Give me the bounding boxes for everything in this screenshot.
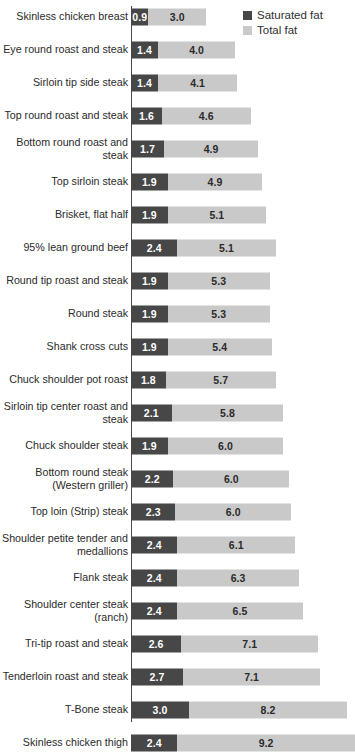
chart-row: Top loin (Strip) steak2.36.0 [0, 495, 325, 528]
bar-segment-saturated-fat: 1.9 [131, 437, 168, 454]
bar-segment-total-fat: 7.1 [183, 668, 320, 685]
category-label: Skinless chicken breast [2, 10, 128, 22]
stacked-bar: 1.95.3 [131, 272, 270, 289]
chart-row: Sirloin tip center roast and steak2.15.8 [0, 396, 325, 429]
chart-row: Chuck shoulder pot roast1.85.7 [0, 363, 325, 396]
stacked-bar: 1.95.3 [131, 305, 270, 322]
category-label: Skinless chicken thigh [2, 736, 128, 748]
category-label: Bottom round roast and steak [2, 136, 128, 161]
stacked-bar: 1.64.6 [131, 107, 251, 124]
stacked-bar: 2.77.1 [131, 668, 320, 685]
bar-segment-saturated-fat: 3.0 [131, 701, 189, 718]
bar-segment-saturated-fat: 1.9 [131, 272, 168, 289]
bar-segment-total-fat: 3.0 [148, 8, 206, 25]
bar-segment-saturated-fat: 2.6 [131, 635, 181, 652]
stacked-bar: 1.94.9 [131, 173, 262, 190]
category-label: Shank cross cuts [2, 340, 128, 352]
category-label: Shoulder center steak (ranch) [2, 598, 128, 623]
bar-segment-saturated-fat: 1.4 [131, 41, 158, 58]
stacked-bar: 2.45.1 [131, 239, 276, 256]
category-label: Top round roast and steak [2, 109, 128, 121]
bar-segment-total-fat: 5.3 [168, 305, 270, 322]
chart-row: Skinless chicken thigh2.49.2 [0, 726, 325, 756]
bar-segment-total-fat: 4.1 [158, 74, 237, 91]
chart-row: Chuck shoulder steak1.96.0 [0, 429, 325, 462]
bar-segment-saturated-fat: 2.4 [131, 602, 177, 619]
chart-row: Bottom round steak (Western griller)2.26… [0, 462, 325, 495]
bar-segment-saturated-fat: 2.4 [131, 569, 177, 586]
stacked-bar: 1.95.4 [131, 338, 272, 355]
chart-row: Brisket, flat half1.95.1 [0, 198, 325, 231]
stacked-bar: 1.74.9 [131, 140, 258, 157]
bar-segment-saturated-fat: 1.4 [131, 74, 158, 91]
bar-segment-total-fat: 6.0 [175, 503, 291, 520]
stacked-bar: 1.44.0 [131, 41, 235, 58]
chart-row: Shoulder petite tender and medallions2.4… [0, 528, 325, 561]
category-label: Round tip roast and steak [2, 274, 128, 286]
category-label: Top loin (Strip) steak [2, 505, 128, 517]
category-label: Brisket, flat half [2, 208, 128, 220]
chart-row: Round steak1.95.3 [0, 297, 325, 330]
bar-segment-total-fat: 4.6 [162, 107, 251, 124]
chart-row: Bottom round roast and steak1.74.9 [0, 132, 325, 165]
stacked-bar: 2.67.1 [131, 635, 318, 652]
stacked-bar: 2.49.2 [131, 734, 355, 751]
category-label: Flank steak [2, 571, 128, 583]
chart-row: Sirloin tip side steak1.44.1 [0, 66, 325, 99]
bar-segment-total-fat: 5.4 [168, 338, 272, 355]
stacked-bar: 2.36.0 [131, 503, 291, 520]
bar-segment-total-fat: 5.3 [168, 272, 270, 289]
bar-segment-total-fat: 7.1 [181, 635, 318, 652]
bar-segment-total-fat: 6.3 [177, 569, 299, 586]
category-label: T-Bone steak [2, 703, 128, 715]
bar-segment-total-fat: 9.2 [177, 734, 355, 751]
stacked-bar: 0.93.0 [131, 8, 206, 25]
category-label: Shoulder petite tender and medallions [2, 532, 128, 557]
bar-segment-saturated-fat: 1.9 [131, 173, 168, 190]
category-label: Sirloin tip center roast and steak [2, 400, 128, 425]
bar-segment-total-fat: 5.7 [166, 371, 276, 388]
stacked-bar: 1.85.7 [131, 371, 276, 388]
chart-row: Round tip roast and steak1.95.3 [0, 264, 325, 297]
bar-segment-saturated-fat: 1.9 [131, 338, 168, 355]
stacked-bar: 2.15.8 [131, 404, 283, 421]
bar-segment-saturated-fat: 1.9 [131, 305, 168, 322]
bar-segment-total-fat: 5.8 [172, 404, 284, 421]
bar-segment-saturated-fat: 1.9 [131, 206, 168, 223]
bar-segment-total-fat: 4.9 [164, 140, 259, 157]
category-label: Eye round roast and steak [2, 43, 128, 55]
bar-segment-saturated-fat: 2.3 [131, 503, 175, 520]
chart-row: Top round roast and steak1.64.6 [0, 99, 325, 132]
stacked-bar: 2.46.5 [131, 602, 303, 619]
stacked-bar: 3.08.2 [131, 701, 347, 718]
bar-segment-total-fat: 8.2 [189, 701, 347, 718]
category-label: Tenderloin roast and steak [2, 670, 128, 682]
bar-segment-total-fat: 4.9 [168, 173, 263, 190]
bar-segment-saturated-fat: 2.4 [131, 536, 177, 553]
category-label: Chuck shoulder steak [2, 439, 128, 451]
chart-row: Skinless chicken breast0.93.0 [0, 0, 325, 33]
bar-segment-saturated-fat: 1.7 [131, 140, 164, 157]
chart-row: Top sirloin steak1.94.9 [0, 165, 325, 198]
bar-segment-total-fat: 4.0 [158, 41, 235, 58]
bar-segment-saturated-fat: 1.8 [131, 371, 166, 388]
category-label: Round steak [2, 307, 128, 319]
category-label: 95% lean ground beef [2, 241, 128, 253]
category-label: Tri-tip roast and steak [2, 637, 128, 649]
bar-segment-total-fat: 6.5 [177, 602, 302, 619]
chart-row: T-Bone steak3.08.2 [0, 693, 325, 726]
bar-segment-total-fat: 5.1 [168, 206, 266, 223]
stacked-bar: 1.96.0 [131, 437, 283, 454]
bar-segment-saturated-fat: 0.9 [131, 8, 148, 25]
category-label: Sirloin tip side steak [2, 76, 128, 88]
bar-segment-saturated-fat: 2.4 [131, 239, 177, 256]
chart-rows: Skinless chicken breast0.93.0Eye round r… [0, 0, 325, 756]
bar-segment-saturated-fat: 2.4 [131, 734, 177, 751]
category-label: Chuck shoulder pot roast [2, 373, 128, 385]
stacked-bar: 2.46.1 [131, 536, 295, 553]
bar-segment-saturated-fat: 1.6 [131, 107, 162, 124]
bar-segment-total-fat: 6.0 [173, 470, 289, 487]
chart-row: Shoulder center steak (ranch)2.46.5 [0, 594, 325, 627]
category-label: Top sirloin steak [2, 175, 128, 187]
